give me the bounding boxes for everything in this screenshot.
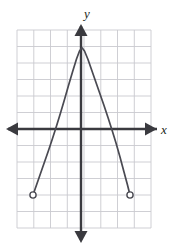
open-circle-endpoint-right bbox=[127, 192, 133, 198]
graph-figure: y x bbox=[0, 0, 172, 251]
y-axis-arrow-down bbox=[75, 231, 88, 243]
x-axis-label: x bbox=[160, 122, 167, 137]
coordinate-plane-svg: y x bbox=[0, 0, 172, 251]
open-circle-endpoint-left bbox=[30, 192, 36, 198]
x-axis-arrow-left bbox=[6, 123, 18, 136]
y-axis-label: y bbox=[82, 6, 90, 21]
